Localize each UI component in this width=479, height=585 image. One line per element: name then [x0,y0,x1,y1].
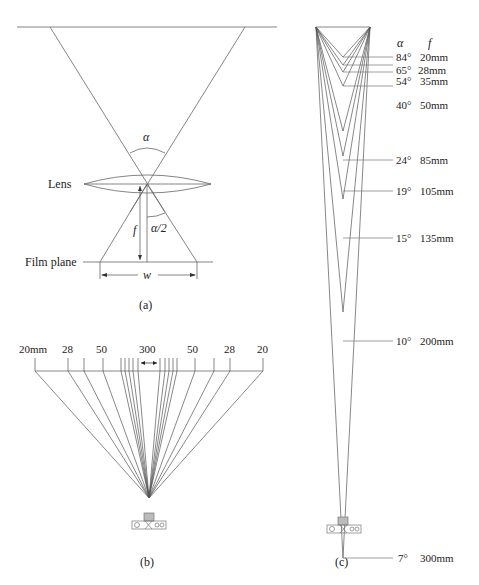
row-angle: 40° [396,99,411,111]
caption-c: (c) [335,555,348,569]
header-f: f [428,36,433,50]
row-focal: 20mm [420,51,449,63]
row-focal: 300mm [420,552,454,564]
width-label: w [143,268,151,282]
fan-rays [35,371,263,498]
half-alpha-arc [147,213,165,217]
v-rays [316,27,370,558]
tick-label: 300 [139,343,156,355]
arrowhead-left-icon [141,361,145,365]
film-plane-label: Film plane [25,255,77,269]
camera-icon [327,517,361,533]
caption-b: (b) [140,555,154,569]
row-angle: 54° [396,75,411,87]
panel-b-tick-labels: 20mm 28 50 300 50 28 20 [19,343,269,355]
caption-a: (a) [139,298,152,312]
alpha-label: α [143,130,150,144]
row-focal: 85mm [420,154,449,166]
tick-label: 50 [96,343,108,355]
row-focal: 135mm [420,232,454,244]
leader-lines [343,57,393,558]
tick-label: 28 [224,343,236,355]
row-angle: 19° [396,185,411,197]
arrowhead-down-icon [138,255,142,260]
tick-label: 20mm [19,343,48,355]
arrowhead-up-icon [138,186,142,191]
row-focal: 50mm [420,99,449,111]
arrowhead-left-icon [101,273,107,277]
tick-label: 20 [257,343,269,355]
focal-label: f [133,223,138,237]
alpha-arc [130,148,165,153]
tick-label: 28 [62,343,74,355]
camera-icon [132,513,166,529]
row-focal: 200mm [420,335,454,347]
arrowhead-right-icon [153,361,157,365]
arrowhead-right-icon [190,273,196,277]
panel-a [17,27,277,279]
field-of-view-diagram: α Lens f α/2 Film plane w (a) [0,0,479,585]
panel-a-arrowheads [101,186,196,277]
row-angle: 7° [398,552,408,564]
row-angle: 24° [396,154,411,166]
row-angle: 10° [396,335,411,347]
lens-label: Lens [48,177,72,191]
row-focal: 105mm [420,185,454,197]
tick-label: 50 [187,343,199,355]
panel-b [35,358,263,498]
row-focal: 35mm [420,75,449,87]
panel-c-rows: 84° 20mm 65° 28mm 54° 35mm 40° 50mm 24° … [396,51,454,564]
half-alpha-label: α/2 [151,221,167,235]
row-angle: 15° [396,232,411,244]
row-angle: 84° [396,51,411,63]
tick-marks [35,358,263,371]
panel-c [316,27,393,558]
header-alpha: α [397,36,404,50]
